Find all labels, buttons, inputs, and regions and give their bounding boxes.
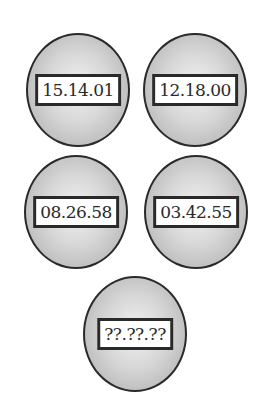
ball-5-unknown: ??.??.?? — [83, 276, 187, 392]
ball-label: 15.14.01 — [35, 74, 121, 106]
ball-label: 08.26.58 — [33, 196, 119, 228]
cropped-header-text — [6, 0, 196, 4]
ball-2: 12.18.00 — [143, 33, 247, 147]
ball-label-unknown: ??.??.?? — [97, 318, 173, 350]
ball-label: 03.42.55 — [153, 196, 239, 228]
ball-3: 08.26.58 — [24, 155, 128, 269]
ball-4: 03.42.55 — [144, 155, 248, 269]
ball-1: 15.14.01 — [26, 33, 130, 147]
ball-label: 12.18.00 — [152, 74, 238, 106]
